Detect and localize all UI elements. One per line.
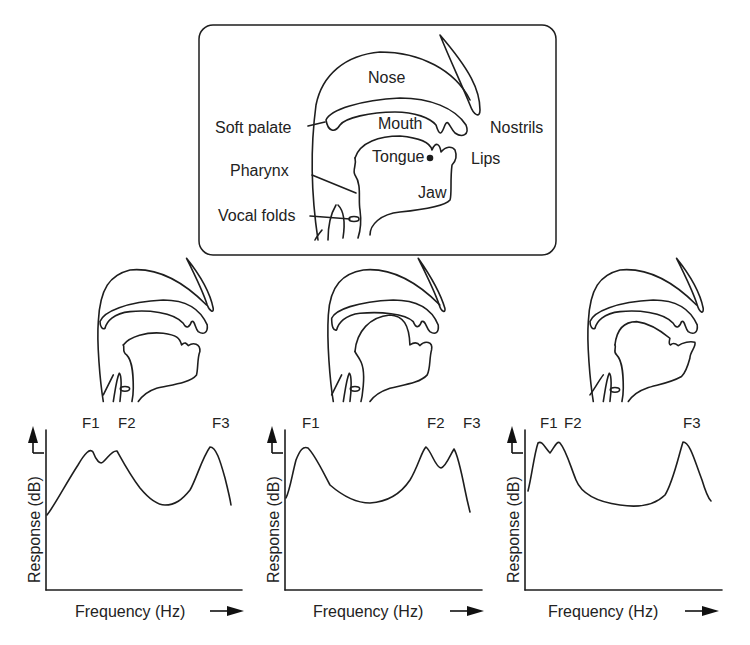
label-jaw: Jaw [418, 184, 447, 201]
graph-1-x-axis-label: Frequency (Hz) [75, 603, 185, 620]
label-nose: Nose [368, 69, 405, 86]
label-mouth: Mouth [378, 115, 422, 132]
graph-3-f3-label: F3 [683, 414, 701, 431]
graph-2-x-axis-label: Frequency (Hz) [313, 603, 423, 620]
graph-1-axes [46, 430, 242, 590]
graph-2-f1-label: F1 [302, 414, 320, 431]
y-axis-arrow-icon [267, 426, 277, 443]
vocal-tract-drawing-3 [588, 258, 703, 401]
graph-1-f3-label: F3 [212, 414, 230, 431]
graph-1-y-axis-label: Response (dB) [26, 476, 43, 583]
main-vocal-tract-drawing [308, 35, 480, 240]
label-tongue: Tongue [372, 148, 425, 165]
vocal-tract-formant-figure: Nose Soft palate Mouth Nostrils Tongue L… [0, 0, 750, 645]
graph-1-f2-label: F2 [118, 414, 136, 431]
graph-3-x-axis-label: Frequency (Hz) [548, 603, 658, 620]
graph-2-y-axis-label: Response (dB) [265, 476, 282, 583]
graph-1-response-curve [47, 447, 231, 515]
graph-2-f3-label: F3 [463, 414, 481, 431]
label-lips: Lips [471, 150, 500, 167]
graph-3-y-axis-label: Response (dB) [505, 476, 522, 583]
label-soft-palate: Soft palate [215, 119, 292, 136]
x-axis-arrow-icon [467, 606, 484, 616]
x-axis-arrow-icon [227, 606, 244, 616]
graph-3-response-curve [528, 442, 711, 506]
graph-2-response-curve [286, 447, 470, 512]
graph-3-f2-label: F2 [564, 414, 582, 431]
label-vocal-folds: Vocal folds [218, 207, 295, 224]
label-nostrils: Nostrils [490, 119, 543, 136]
x-axis-arrow-icon [702, 606, 719, 616]
label-pharynx: Pharynx [230, 162, 289, 179]
y-axis-arrow-icon [28, 426, 38, 443]
graph-3-f1-label: F1 [540, 414, 558, 431]
vocal-tract-drawing-2 [328, 258, 445, 401]
graph-2-f2-label: F2 [427, 414, 445, 431]
graph-1-f1-label: F1 [82, 414, 100, 431]
graph-2-axes [285, 430, 482, 590]
vocal-tract-drawing-1 [98, 258, 213, 401]
y-axis-arrow-icon [507, 426, 517, 443]
